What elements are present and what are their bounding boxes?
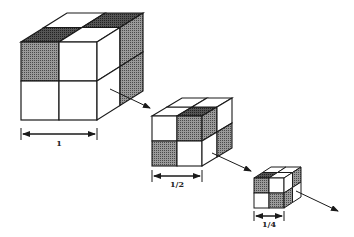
small-scale-label: 1/4 (258, 219, 280, 229)
small-cube (254, 167, 301, 208)
large-cube (21, 13, 143, 120)
large-scale-label: 1 (51, 138, 67, 148)
arrow-medium-to-small (212, 153, 251, 171)
arrow-small-to-next (296, 191, 338, 211)
medium-cube (152, 98, 232, 166)
cube-scaling-diagram (0, 0, 354, 237)
medium-scale-label: 1/2 (164, 179, 190, 189)
